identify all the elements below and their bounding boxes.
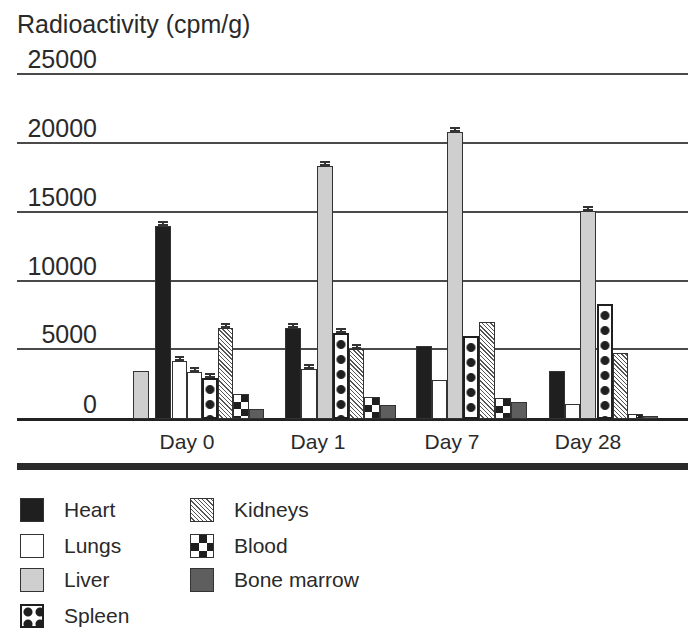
bar-blood-day-28 <box>628 414 643 419</box>
gridline <box>17 73 688 75</box>
legend-item-blood: Blood <box>190 533 288 559</box>
x-tick-label: Day 1 <box>263 430 373 454</box>
legend-swatch-blood <box>190 534 214 558</box>
bar-kidneys-day-0 <box>218 328 233 419</box>
legend-item-lungs: Lungs <box>20 533 121 559</box>
bar-blood-day-7 <box>495 398 511 419</box>
bar-heart-day-7 <box>416 346 432 419</box>
error-bar <box>583 206 593 211</box>
legend-swatch-heart <box>20 498 44 522</box>
legend-item-spleen: Spleen <box>20 603 129 629</box>
error-bar <box>320 161 330 166</box>
error-bar <box>190 367 199 372</box>
x-tick-label: Day 28 <box>533 430 643 454</box>
legend-item-kidneys: Kidneys <box>190 497 309 523</box>
error-bar <box>158 221 168 226</box>
legend-label: Lungs <box>64 534 121 558</box>
bar-liver-day-0 <box>133 371 149 419</box>
error-bar <box>336 328 346 333</box>
bar-lungs-day-7 <box>432 380 447 419</box>
bar-spleen-day-0 <box>202 378 218 419</box>
legend-label: Kidneys <box>234 498 309 522</box>
legend-swatch-liver <box>20 568 44 592</box>
error-bar <box>175 356 184 361</box>
bar-marrow-day-28 <box>643 416 658 419</box>
legend-label: Bone marrow <box>234 568 359 592</box>
y-tick-label: 10000 <box>27 254 97 279</box>
bar-marrow-day-1 <box>380 405 396 419</box>
y-axis-title: Radioactivity (cpm/g) <box>17 10 250 39</box>
legend-item-liver: Liver <box>20 567 110 593</box>
bar-heart-day-28 <box>549 371 565 419</box>
legend-label: Blood <box>234 534 288 558</box>
bar-lungs-day-1 <box>301 369 317 419</box>
bar-liver-day-7 <box>447 132 463 419</box>
legend-label: Spleen <box>64 604 129 628</box>
bar-spleen-day-7 <box>463 336 479 419</box>
x-tick-label: Day 0 <box>132 430 242 454</box>
legend-item-marrow: Bone marrow <box>190 567 359 593</box>
bar-marrow-day-7 <box>511 402 527 419</box>
legend-swatch-lungs <box>20 534 44 558</box>
bar-blood-day-0 <box>233 394 249 419</box>
y-tick-label: 25000 <box>27 47 97 72</box>
legend-label: Liver <box>64 568 110 592</box>
legend-swatch-spleen <box>20 604 44 628</box>
error-bar <box>288 323 298 328</box>
error-bar <box>221 323 230 328</box>
bar-spleen-day-1 <box>333 333 349 419</box>
legend-item-heart: Heart <box>20 497 115 523</box>
bar-lungs-day-0 <box>187 372 202 419</box>
bar-heart-day-0 <box>155 226 171 419</box>
bar-kidneys-day-7 <box>479 322 495 419</box>
y-tick-label: 20000 <box>27 116 97 141</box>
error-bar <box>304 364 314 369</box>
bar-spleen-day-28 <box>597 304 613 419</box>
error-bar <box>352 344 361 349</box>
separator-line <box>17 463 688 470</box>
y-tick-label: 5000 <box>41 322 97 347</box>
error-bar <box>205 373 215 378</box>
legend-label: Heart <box>64 498 115 522</box>
bar-liver-day-1 <box>317 166 333 419</box>
bar-lungs-day-0 <box>172 361 187 419</box>
legend-swatch-marrow <box>190 568 214 592</box>
bar-liver-day-28 <box>580 211 596 419</box>
y-tick-label: 0 <box>83 392 97 417</box>
bar-blood-day-1 <box>364 397 380 419</box>
bar-heart-day-1 <box>285 328 301 419</box>
x-tick-label: Day 7 <box>397 430 507 454</box>
bar-kidneys-day-1 <box>349 349 364 419</box>
gridline <box>17 142 688 144</box>
y-tick-label: 15000 <box>27 185 97 210</box>
error-bar <box>450 127 460 132</box>
legend-swatch-kidneys <box>190 498 214 522</box>
bar-lungs-day-28 <box>565 404 580 419</box>
bar-marrow-day-0 <box>249 409 264 419</box>
bar-kidneys-day-28 <box>613 353 628 419</box>
